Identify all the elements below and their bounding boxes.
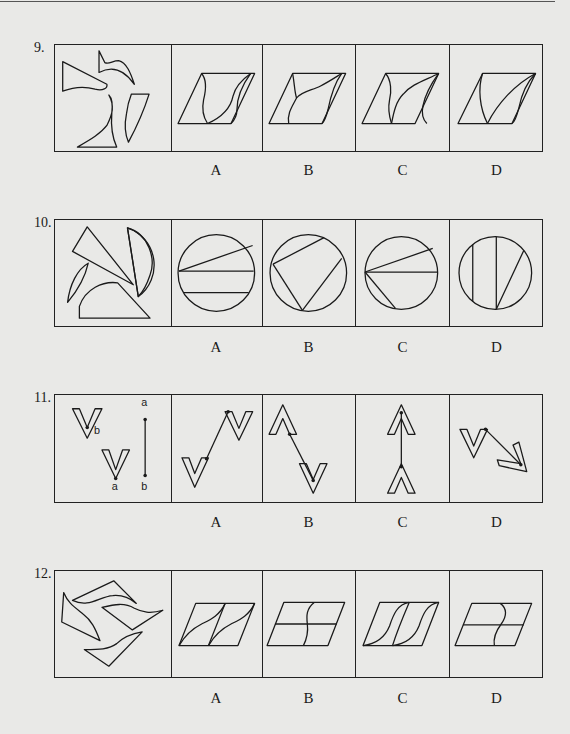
- option-b-cell[interactable]: [262, 395, 355, 502]
- fragments-figure: [55, 45, 171, 151]
- option-c-cell[interactable]: [355, 571, 450, 677]
- option-d-figure: [450, 571, 542, 677]
- option-a-figure: [172, 220, 263, 326]
- option-labels: A B C D: [54, 514, 543, 531]
- option-label-c: C: [355, 514, 450, 531]
- option-a-cell[interactable]: [171, 220, 263, 326]
- option-b-figure: [263, 571, 355, 677]
- option-label-a: A: [170, 162, 262, 179]
- option-c-cell[interactable]: [355, 395, 450, 502]
- top-rule: [0, 1, 555, 2]
- option-a-figure: [172, 45, 263, 151]
- option-c-figure: [356, 45, 450, 151]
- option-d-cell[interactable]: [449, 395, 542, 502]
- figure-strip: [54, 44, 543, 152]
- question-number: 9.: [34, 40, 45, 56]
- option-c-cell[interactable]: [355, 220, 450, 326]
- option-a-figure: [172, 571, 263, 677]
- option-b-cell[interactable]: [262, 220, 355, 326]
- option-c-cell[interactable]: [355, 45, 450, 151]
- option-c-figure: [356, 220, 450, 326]
- figure-strip: [54, 219, 543, 327]
- question-number: 10.: [34, 215, 52, 231]
- pieces-figure: [55, 220, 171, 326]
- option-label-c: C: [355, 162, 450, 179]
- option-label-d: D: [450, 514, 543, 531]
- option-a-cell[interactable]: [171, 395, 263, 502]
- option-label-b: B: [262, 339, 355, 356]
- point-label-a: a: [112, 480, 118, 492]
- point-label-b: b: [94, 424, 100, 436]
- option-label-c: C: [355, 690, 450, 707]
- option-label-b: B: [262, 690, 355, 707]
- option-label-a: A: [170, 514, 262, 531]
- option-d-figure: [450, 395, 542, 502]
- option-label-d: D: [450, 339, 543, 356]
- option-label-d: D: [450, 162, 543, 179]
- option-label-a: A: [170, 690, 262, 707]
- option-labels: A B C D: [54, 690, 543, 707]
- segment-label-a: a: [141, 396, 147, 408]
- option-d-cell[interactable]: [449, 220, 542, 326]
- question-number: 12.: [34, 566, 52, 582]
- option-a-cell[interactable]: [171, 45, 263, 151]
- option-c-figure: [356, 395, 450, 502]
- option-d-figure: [450, 220, 542, 326]
- stem-cell: b a a b: [55, 395, 171, 502]
- option-labels: A B C D: [54, 162, 543, 179]
- option-a-figure: [172, 395, 263, 502]
- figure-strip: [54, 570, 543, 678]
- segment-label-b: b: [141, 480, 147, 492]
- option-b-figure: [263, 45, 355, 151]
- option-d-cell[interactable]: [449, 45, 542, 151]
- figure-strip: b a a b: [54, 394, 543, 503]
- option-b-figure: [263, 220, 355, 326]
- option-b-cell[interactable]: [262, 571, 355, 677]
- stem-cell: [55, 220, 171, 326]
- option-d-figure: [450, 45, 542, 151]
- option-label-b: B: [262, 162, 355, 179]
- option-label-c: C: [355, 339, 450, 356]
- stem-cell: [55, 571, 171, 677]
- option-label-d: D: [450, 690, 543, 707]
- stem-cell: [55, 45, 171, 151]
- question-number: 11.: [34, 390, 51, 406]
- option-labels: A B C D: [54, 339, 543, 356]
- option-c-figure: [356, 571, 450, 677]
- pinwheel-pieces-figure: [55, 571, 171, 677]
- option-label-a: A: [170, 339, 262, 356]
- option-d-cell[interactable]: [449, 571, 542, 677]
- option-b-cell[interactable]: [262, 45, 355, 151]
- option-label-b: B: [262, 514, 355, 531]
- v-shapes-figure: b a a b: [55, 395, 171, 502]
- option-a-cell[interactable]: [171, 571, 263, 677]
- option-b-figure: [263, 395, 355, 502]
